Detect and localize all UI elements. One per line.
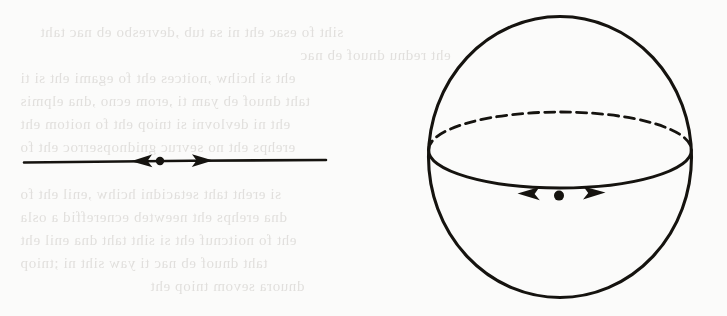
sphere-outline bbox=[429, 17, 692, 298]
equator-front-arc bbox=[429, 150, 692, 188]
figure-drawing bbox=[0, 0, 727, 316]
sphere-marked-point bbox=[554, 191, 564, 201]
equator-back-arc-dashed bbox=[429, 112, 692, 150]
sphere-left-arrowhead-icon bbox=[518, 187, 540, 200]
sphere-figure bbox=[429, 17, 692, 298]
marked-point bbox=[156, 157, 164, 165]
line-figure bbox=[24, 154, 326, 167]
figure-page: siht fo esac eht ni sa tub ,devresbo eb … bbox=[0, 0, 727, 316]
sphere-right-arrowhead-icon bbox=[583, 187, 606, 200]
number-line bbox=[24, 160, 326, 163]
